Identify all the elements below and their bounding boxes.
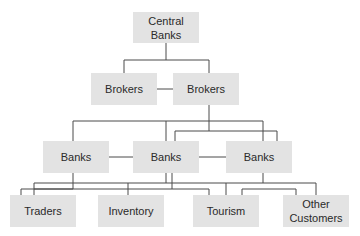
node-brokers-right: Brokers (173, 73, 239, 105)
node-tourism: Tourism (193, 195, 259, 227)
node-inventory: Inventory (98, 195, 164, 227)
node-central-banks: Central Banks (133, 12, 199, 43)
node-banks-right: Banks (226, 141, 292, 173)
node-brokers-left: Brokers (91, 73, 157, 105)
node-banks-middle: Banks (133, 141, 199, 173)
node-traders: Traders (10, 195, 76, 227)
node-other-customers: Other Customers (283, 195, 349, 227)
node-banks-left: Banks (43, 141, 109, 173)
